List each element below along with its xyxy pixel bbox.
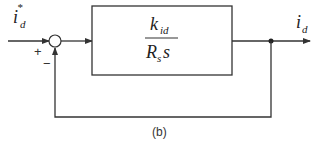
svg-text:i: i bbox=[296, 12, 301, 32]
block-diagram: i d * + − k id R s s i d (b) bbox=[0, 0, 317, 145]
transfer-function-block bbox=[92, 6, 232, 75]
svg-text:d: d bbox=[302, 23, 308, 35]
figure-caption: (b) bbox=[152, 125, 167, 139]
svg-text:id: id bbox=[160, 24, 169, 36]
svg-text:d: d bbox=[20, 18, 26, 30]
svg-text:s: s bbox=[157, 52, 161, 64]
svg-text:k: k bbox=[150, 14, 159, 34]
plus-sign: + bbox=[34, 44, 42, 59]
input-label: i d * bbox=[13, 1, 26, 30]
summing-junction bbox=[49, 35, 61, 47]
minus-sign: − bbox=[43, 56, 51, 71]
svg-text:*: * bbox=[17, 1, 23, 13]
output-label: i d bbox=[296, 12, 308, 35]
svg-text:R: R bbox=[145, 42, 157, 62]
svg-text:s: s bbox=[163, 42, 170, 62]
